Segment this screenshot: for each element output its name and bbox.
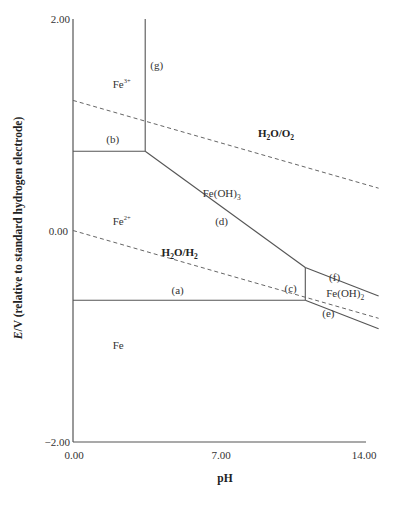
region-label: Fe2+	[113, 214, 131, 227]
boundary-label: (c)	[285, 282, 298, 295]
y-tick-top: 2.00	[51, 13, 71, 25]
region-label: Fe3+	[113, 77, 131, 90]
boundary-label: (b)	[106, 133, 119, 146]
boundary-label: (e)	[322, 307, 335, 320]
x-tick-0: 0.00	[64, 449, 84, 461]
pourbaix-diagram: 2.00 0.00 −2.00 0.00 7.00 14.00 pH E/V (…	[0, 0, 396, 506]
water-line-label: H2O/O2	[258, 127, 294, 142]
y-axis-title: E/V (relative to standard hydrogen elect…	[12, 117, 25, 341]
y-tick-bottom: −2.00	[45, 436, 71, 448]
boundary-label: (d)	[215, 215, 228, 228]
y-tick-mid: 0.00	[49, 225, 69, 237]
boundary-label: (a)	[172, 284, 185, 297]
x-axis-title: pH	[217, 472, 232, 485]
region-label: Fe(OH)3	[203, 187, 241, 202]
water-line-label: H2O/H2	[162, 246, 198, 261]
boundary-label: (g)	[150, 59, 163, 72]
region-label: Fe	[113, 339, 124, 351]
region-label: Fe(OH)2	[326, 287, 364, 302]
boundary-label: (f)	[329, 271, 340, 284]
x-tick-14: 14.00	[352, 449, 377, 461]
boundary-line-e	[305, 300, 378, 329]
x-tick-7: 7.00	[211, 449, 231, 461]
